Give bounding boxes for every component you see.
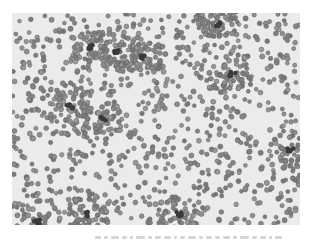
caption-glyph xyxy=(164,236,171,239)
caption-glyph xyxy=(130,236,133,239)
caption-glyph xyxy=(260,236,266,239)
image-caption xyxy=(95,233,300,242)
caption-glyph xyxy=(148,236,152,239)
caption-glyph xyxy=(223,236,230,239)
caption-glyph xyxy=(206,236,212,239)
caption-glyph xyxy=(269,236,272,239)
caption-glyph xyxy=(111,236,119,239)
caption-glyph xyxy=(275,236,282,239)
caption-glyph xyxy=(155,236,161,239)
caption-glyph xyxy=(188,236,196,239)
caption-glyph xyxy=(122,236,127,239)
caption-glyph xyxy=(174,236,177,239)
caption-glyph xyxy=(240,236,249,239)
caption-glyph xyxy=(252,236,257,239)
caption-glyph xyxy=(95,236,101,239)
caption-glyph xyxy=(136,236,145,239)
caption-glyph xyxy=(215,236,220,239)
caption-glyph xyxy=(104,236,108,239)
cell-field xyxy=(12,13,300,225)
caption-glyph xyxy=(233,236,237,239)
caption-glyph xyxy=(199,236,203,239)
micrograph-photo xyxy=(12,13,300,225)
caption-glyph xyxy=(180,236,185,239)
